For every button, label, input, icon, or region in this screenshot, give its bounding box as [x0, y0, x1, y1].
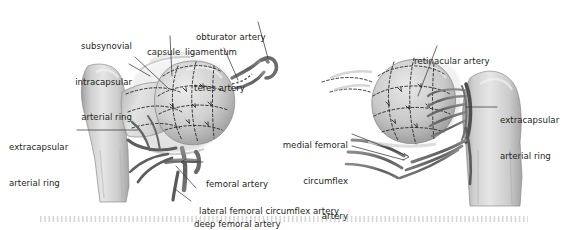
anatomy-figure: subsynovial intracapsular arterial ring … — [0, 0, 568, 230]
label-line: circumflex — [276, 176, 348, 188]
label-line: capsule — [147, 47, 180, 59]
label-obturator-artery: obturator artery — [196, 9, 266, 68]
label-line: intracapsular — [40, 77, 132, 89]
label-line: arterial ring — [9, 178, 68, 190]
label-line: extracapsular — [500, 115, 559, 127]
label-extracapsular-arterial-ring-left: extracapsular arterial ring — [9, 119, 68, 213]
label-capsule: capsule — [147, 24, 180, 83]
label-line: medial femoral — [276, 140, 348, 152]
label-line: teres artery — [194, 83, 255, 95]
label-line: subsynovial — [40, 41, 132, 53]
label-medial-femoral-circumflex-artery: medial femoral circumflex artery — [276, 117, 348, 230]
label-line: obturator artery — [196, 32, 266, 44]
label-line: retinacular artery — [414, 56, 490, 68]
label-extracapsular-arterial-ring-right: extracapsular arterial ring — [500, 92, 559, 186]
label-line: extracapsular — [9, 142, 68, 154]
label-retinacular-artery: retinacular artery — [414, 33, 490, 92]
label-line: artery — [276, 211, 348, 223]
label-line: arterial ring — [500, 151, 559, 163]
label-deep-femoral-artery: deep femoral artery — [194, 196, 281, 230]
label-line: deep femoral artery — [194, 219, 281, 230]
